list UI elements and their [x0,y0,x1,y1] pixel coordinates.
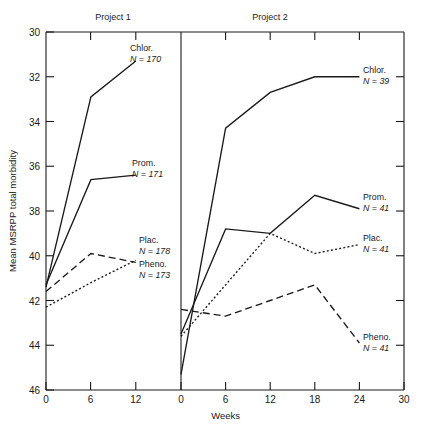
chart-figure: 30 32 34 36 38 40 42 44 46 Mean MSRPP to… [0,0,424,426]
series-label-p1-chlor-n: N = 170 [130,54,161,64]
x-tick-label-p2-30: 30 [398,394,410,405]
y-tick-labels: 30 32 34 36 38 40 42 44 46 [29,27,41,396]
x-axis-title: Weeks [211,410,240,421]
x-tick-label-p2-18: 18 [309,394,321,405]
series-label-p1-prom-n: N = 171 [132,169,163,179]
series-label-p1-pheno-n: N = 173 [139,270,170,280]
x-tick-label-p1-0: 0 [43,394,49,405]
series-label-p2-chlor-name: Chlor. [363,65,386,75]
x-tick-label-p2-6: 6 [223,394,229,405]
series-line-p1-pheno [46,260,136,307]
series-label-p1-prom-name: Prom. [132,158,155,168]
series-group-panel2 [181,77,359,375]
y-tick-label-30: 30 [29,27,41,38]
y-axis-title: Mean MSRPP total morbidity [7,150,18,272]
series-labels-panel2: Chlor. N = 39 Prom. N = 41 Plac. N = 41 … [363,65,391,353]
panel-title-project-2: Project 2 [252,12,288,22]
series-line-p1-plac [46,254,136,292]
series-label-p2-prom-n: N = 41 [363,203,389,213]
series-label-p1-plac-name: Plac. [139,235,159,245]
series-label-p1-chlor-name: Chlor. [130,43,153,53]
x-tick-label-p2-12: 12 [265,394,277,405]
series-label-p2-pheno-n: N = 41 [363,343,389,353]
series-label-p1-plac-n: N = 178 [139,246,170,256]
series-label-p2-pheno-name: Pheno. [363,332,391,342]
panel-title-project-1: Project 1 [95,12,131,22]
series-label-p2-chlor-n: N = 39 [363,76,389,86]
series-group-panel1 [46,61,136,307]
y-tick-label-42: 42 [29,296,41,307]
series-line-p2-plac [181,233,359,336]
chart-axes [46,32,404,390]
y-tick-label-44: 44 [29,340,41,351]
y-tick-label-32: 32 [29,72,41,83]
series-line-p2-chlor [181,77,359,375]
series-label-p2-plac-name: Plac. [363,233,383,243]
x-tick-label-p2-24: 24 [354,394,366,405]
y-tick-label-40: 40 [29,251,41,262]
x-tick-label-p1-12: 12 [130,394,142,405]
series-labels-panel1: Chlor. N = 170 Prom. N = 171 Plac. N = 1… [130,43,170,280]
morbidity-line-chart: 30 32 34 36 38 40 42 44 46 Mean MSRPP to… [0,0,424,426]
series-label-p1-pheno-name: Pheno. [139,259,167,269]
x-tick-label-p2-0: 0 [178,394,184,405]
x-tick-group-panel1: 0 6 12 [43,32,142,405]
y-tick-label-46: 46 [29,385,41,396]
y-tick-label-34: 34 [29,117,41,128]
y-tick-label-38: 38 [29,206,41,217]
series-line-p2-pheno [181,285,359,343]
series-label-p2-plac-n: N = 41 [363,244,389,254]
series-label-p2-prom-name: Prom. [363,192,386,202]
x-tick-label-p1-6: 6 [88,394,94,405]
y-tick-group [46,32,404,390]
y-tick-label-36: 36 [29,161,41,172]
